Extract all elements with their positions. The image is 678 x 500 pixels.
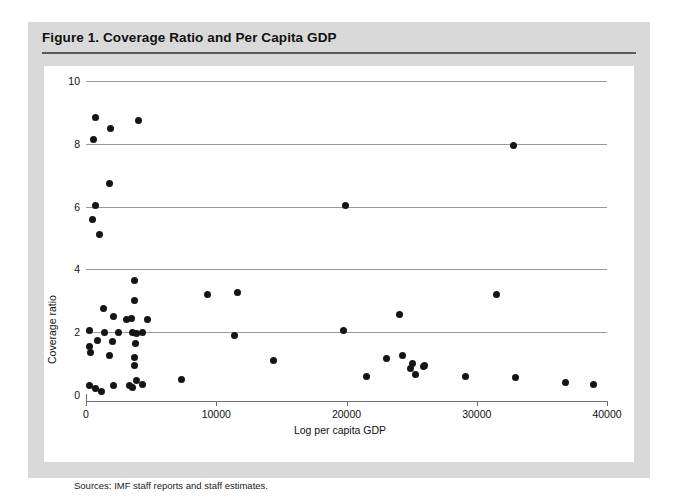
- x-tick-label-20000: 20000: [332, 408, 361, 420]
- x-tick-0: [86, 401, 87, 406]
- data-point: [399, 352, 406, 359]
- data-point: [92, 202, 99, 209]
- data-point: [234, 289, 241, 296]
- data-point: [132, 340, 139, 347]
- data-point: [131, 362, 138, 369]
- x-tick-label-40000: 40000: [592, 408, 621, 420]
- data-point: [123, 316, 130, 323]
- data-point: [92, 114, 99, 121]
- data-point: [421, 362, 428, 369]
- figure-title: Figure 1. Coverage Ratio and Per Capita …: [42, 30, 337, 45]
- data-point: [87, 349, 94, 356]
- data-point: [106, 352, 113, 359]
- data-point: [86, 327, 93, 334]
- plot-card: 0246810010000200003000040000Log per capi…: [44, 66, 634, 462]
- x-tick-20000: [347, 401, 348, 406]
- data-point: [89, 216, 96, 223]
- data-point: [96, 231, 103, 238]
- y-tick-label-0: 0: [60, 389, 80, 401]
- data-point: [590, 381, 597, 388]
- data-point: [90, 136, 97, 143]
- data-point: [512, 374, 519, 381]
- x-tick-label-30000: 30000: [462, 408, 491, 420]
- y-tick-label-8: 8: [60, 138, 80, 150]
- data-point: [98, 388, 105, 395]
- data-point: [510, 142, 517, 149]
- y-tick-label-6: 6: [60, 201, 80, 213]
- scatter-plot: 0246810010000200003000040000Log per capi…: [44, 66, 634, 462]
- title-divider: [42, 52, 636, 54]
- data-point: [94, 337, 101, 344]
- x-tick-10000: [216, 401, 217, 406]
- data-point: [270, 357, 277, 364]
- data-point: [101, 329, 108, 336]
- data-point: [129, 384, 136, 391]
- x-tick-label-0: 0: [83, 408, 89, 420]
- gridline-y-8: [86, 144, 607, 145]
- y-tick-label-4: 4: [60, 263, 80, 275]
- data-point: [204, 291, 211, 298]
- data-point: [115, 329, 122, 336]
- data-point: [139, 329, 146, 336]
- data-point: [131, 297, 138, 304]
- data-point: [131, 277, 138, 284]
- data-point: [139, 381, 146, 388]
- data-point: [107, 125, 114, 132]
- data-point: [383, 355, 390, 362]
- data-point: [231, 332, 238, 339]
- data-point: [562, 379, 569, 386]
- data-point: [110, 382, 117, 389]
- data-point: [363, 373, 370, 380]
- data-point: [493, 291, 500, 298]
- data-point: [396, 311, 403, 318]
- x-tick-label-10000: 10000: [202, 408, 231, 420]
- data-point: [412, 371, 419, 378]
- data-point: [106, 180, 113, 187]
- y-tick-label-10: 10: [60, 75, 80, 87]
- data-point: [178, 376, 185, 383]
- data-point: [340, 327, 347, 334]
- x-axis-title: Log per capita GDP: [294, 424, 386, 436]
- data-point: [144, 316, 151, 323]
- data-point: [462, 373, 469, 380]
- source-note: Sources: IMF staff reports and staff est…: [74, 480, 268, 491]
- data-point: [100, 305, 107, 312]
- x-tick-30000: [477, 401, 478, 406]
- figure-panel: Figure 1. Coverage Ratio and Per Capita …: [28, 22, 650, 478]
- y-tick-label-2: 2: [60, 326, 80, 338]
- data-point: [131, 354, 138, 361]
- data-point: [110, 313, 117, 320]
- x-axis-origin-stub: [86, 394, 87, 401]
- data-point: [109, 338, 116, 345]
- y-axis-title: Coverage ratio: [46, 295, 58, 364]
- data-point: [342, 202, 349, 209]
- x-tick-40000: [607, 401, 608, 406]
- gridline-y-10: [86, 81, 607, 82]
- data-point: [135, 117, 142, 124]
- gridline-y-4: [86, 269, 607, 270]
